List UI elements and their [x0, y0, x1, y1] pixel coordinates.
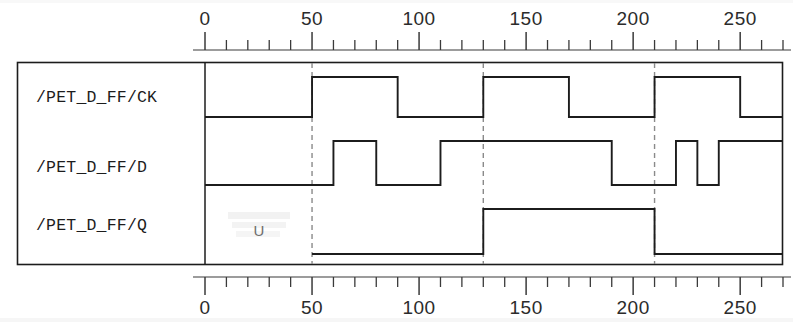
timing-diagram-canvas: 050100150200250 050100150200250 /PET_D_F…	[0, 0, 793, 329]
axis-top-labels: 050100150200250	[199, 8, 756, 29]
axis-tick-label-bottom: 50	[301, 297, 323, 318]
axis-tick-label-bottom: 100	[402, 297, 435, 318]
axis-tick-label-bottom: 250	[724, 297, 757, 318]
axis-bottom-labels: 050100150200250	[199, 297, 756, 318]
axis-tick-label-top: 150	[510, 8, 543, 29]
timing-diagram-svg: 050100150200250 050100150200250 /PET_D_F…	[0, 0, 793, 329]
axis-tick-label-bottom: 200	[617, 297, 650, 318]
axis-bottom	[193, 277, 791, 295]
waveform-d	[205, 141, 783, 185]
signal-label-d: /PET_D_FF/D	[36, 158, 147, 177]
waveform-ck	[205, 77, 783, 117]
axis-tick-label-top: 0	[199, 8, 210, 29]
axis-tick-label-bottom: 150	[510, 297, 543, 318]
axis-tick-label-top: 100	[402, 8, 435, 29]
axis-top	[193, 32, 791, 50]
signal-label-ck: /PET_D_FF/CK	[36, 88, 157, 107]
axis-tick-label-top: 50	[301, 8, 323, 29]
waveform-q	[312, 209, 783, 254]
undefined-state-marker: U	[254, 222, 265, 239]
signal-label-q: /PET_D_FF/Q	[36, 216, 147, 235]
waveform-traces	[205, 77, 783, 254]
axis-tick-label-top: 200	[617, 8, 650, 29]
axis-tick-label-bottom: 0	[199, 297, 210, 318]
axis-tick-label-top: 250	[724, 8, 757, 29]
